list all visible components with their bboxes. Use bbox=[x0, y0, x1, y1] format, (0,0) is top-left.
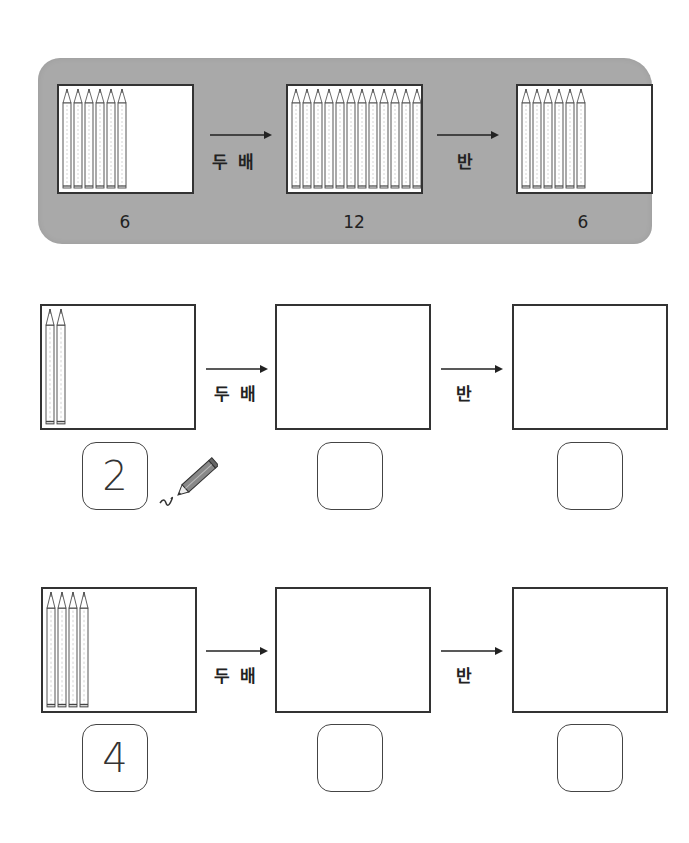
pencil-icon bbox=[291, 89, 301, 189]
operation-double-label: 두 배 bbox=[214, 662, 258, 687]
pencil-icon bbox=[576, 89, 586, 189]
pencil-icon bbox=[56, 309, 66, 425]
pencil-group bbox=[62, 89, 127, 189]
operation-half-label: 반 bbox=[456, 380, 474, 405]
problem-1-answer-middle[interactable] bbox=[317, 442, 383, 510]
problem-2-answer-end[interactable] bbox=[557, 724, 623, 792]
problem-1-box-start bbox=[40, 304, 196, 430]
problem-2-answer-start: 4 bbox=[82, 724, 148, 792]
pencil-icon bbox=[117, 89, 127, 189]
problem-2-box-middle bbox=[275, 587, 431, 713]
example-count-start: 6 bbox=[105, 212, 145, 232]
pencil-icon bbox=[62, 89, 72, 189]
pencil-icon bbox=[346, 89, 356, 189]
operation-half-label: 반 bbox=[456, 662, 474, 687]
pencil-icon bbox=[45, 309, 55, 425]
example-count-end: 6 bbox=[563, 212, 603, 232]
pencil-group bbox=[46, 592, 89, 708]
pencil-icon bbox=[324, 89, 334, 189]
pencil-group bbox=[291, 89, 422, 189]
example-box-start bbox=[57, 84, 194, 194]
pencil-icon bbox=[521, 89, 531, 189]
problem-1-answer-end[interactable] bbox=[557, 442, 623, 510]
arrow-right-icon bbox=[210, 130, 272, 144]
operation-double-label: 두 배 bbox=[214, 380, 258, 405]
pencil-icon bbox=[565, 89, 575, 189]
pencil-icon bbox=[401, 89, 411, 189]
example-box-middle bbox=[286, 84, 423, 194]
arrow-right-icon bbox=[206, 364, 268, 378]
arrow-right-icon bbox=[441, 364, 503, 378]
pencil-icon bbox=[73, 89, 83, 189]
pencil-icon bbox=[412, 89, 422, 189]
problem-1-answer-start: 2 bbox=[82, 442, 148, 510]
pencil-icon bbox=[543, 89, 553, 189]
problem-2-box-start bbox=[41, 587, 197, 713]
pencil-group bbox=[45, 309, 66, 425]
problem-1-box-end bbox=[512, 304, 668, 430]
pencil-icon bbox=[554, 89, 564, 189]
pencil-icon bbox=[106, 89, 116, 189]
pencil-icon bbox=[84, 89, 94, 189]
pencil-icon bbox=[357, 89, 367, 189]
arrow-right-icon bbox=[206, 646, 268, 660]
operation-double-label: 두 배 bbox=[212, 148, 256, 173]
pencil-icon bbox=[79, 592, 89, 708]
pencil-icon bbox=[46, 592, 56, 708]
problem-1-box-middle bbox=[275, 304, 431, 430]
arrow-right-icon bbox=[437, 130, 499, 144]
pencil-icon bbox=[313, 89, 323, 189]
pencil-icon bbox=[95, 89, 105, 189]
pencil-icon bbox=[68, 592, 78, 708]
pencil-icon bbox=[532, 89, 542, 189]
example-box-end bbox=[516, 84, 653, 194]
writing-pencil-icon bbox=[158, 455, 218, 515]
arrow-right-icon bbox=[441, 646, 503, 660]
operation-half-label: 반 bbox=[457, 148, 475, 173]
pencil-group bbox=[521, 89, 586, 189]
pencil-icon bbox=[379, 89, 389, 189]
pencil-icon bbox=[335, 89, 345, 189]
pencil-icon bbox=[368, 89, 378, 189]
pencil-icon bbox=[390, 89, 400, 189]
problem-2-box-end bbox=[512, 587, 668, 713]
pencil-icon bbox=[302, 89, 312, 189]
pencil-icon bbox=[57, 592, 67, 708]
example-count-middle: 12 bbox=[334, 212, 374, 232]
problem-2-answer-middle[interactable] bbox=[317, 724, 383, 792]
